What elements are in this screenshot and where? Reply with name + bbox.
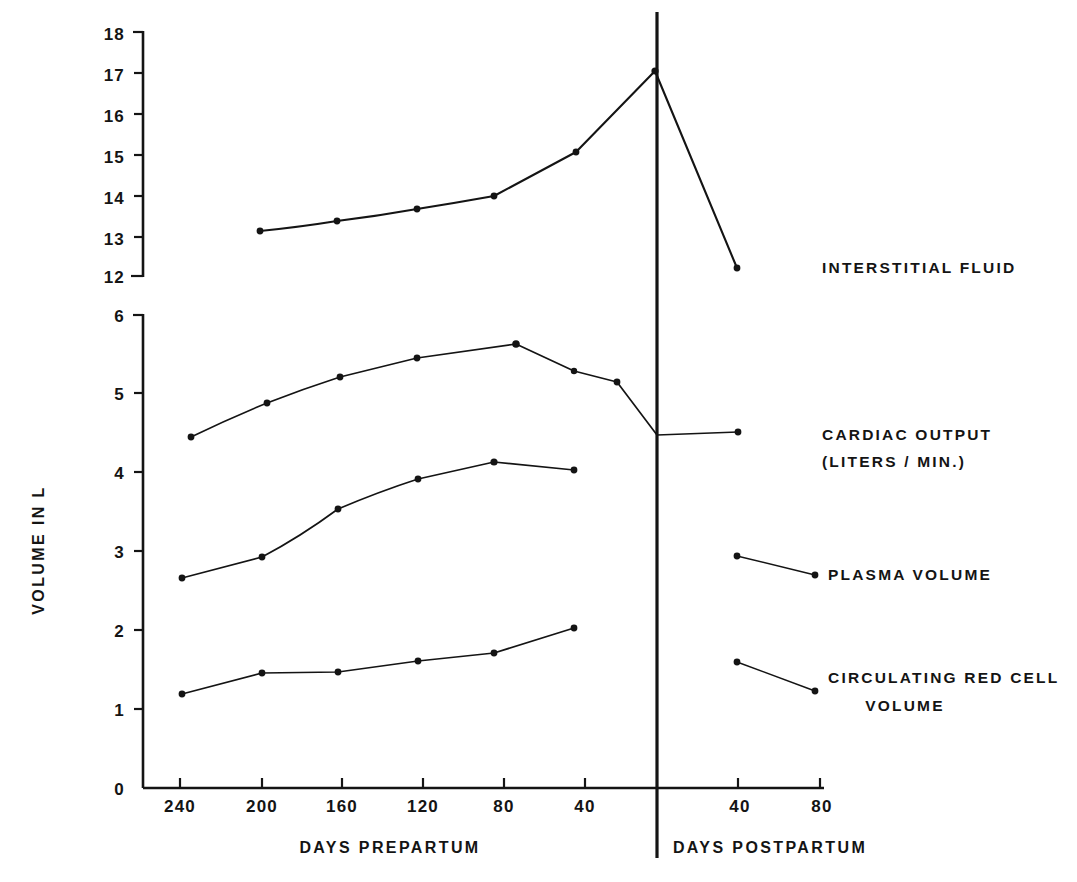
x-tick-label-200: 200: [246, 797, 278, 816]
data-point: [179, 575, 186, 582]
data-point: [415, 658, 422, 665]
y-tick-label-5: 5: [114, 385, 125, 404]
data-point: [571, 368, 577, 374]
data-point: [257, 228, 264, 235]
chart-svg: 18 17 16 15 14 13 12 INTERSTITIAL FLUID: [0, 0, 1077, 882]
y-tick-label-0: 0: [114, 780, 125, 799]
series-label-red-cell-line2: VOLUME: [865, 697, 945, 714]
upper-y-tick-labels: 18 17 16 15 14 13 12: [104, 25, 125, 287]
y-tick-label-2: 2: [114, 622, 125, 641]
y-tick-label-16: 16: [104, 107, 125, 126]
data-point: [259, 670, 266, 677]
red-cell-volume-line: [182, 628, 574, 694]
x-axis-title-postpartum: DAYS POSTPARTUM: [673, 839, 867, 856]
y-tick-label-12: 12: [104, 268, 125, 287]
data-point: [264, 400, 271, 407]
data-point: [335, 669, 342, 676]
x-tick-labels: 240 200 160 120 80 40 40 80: [164, 797, 833, 816]
red-cell-volume-leader: [737, 662, 815, 691]
x-axis-ticks: [180, 778, 820, 788]
data-point: [414, 206, 421, 213]
x-tick-label-post-80: 80: [811, 797, 832, 816]
y-tick-label-15: 15: [104, 148, 125, 167]
x-tick-label-40: 40: [574, 797, 595, 816]
plasma-volume-line: [182, 462, 574, 578]
x-tick-label-post-40: 40: [729, 797, 750, 816]
series-label-plasma-volume: PLASMA VOLUME: [828, 566, 992, 583]
upper-panel-axis: [131, 31, 143, 277]
data-point: [491, 193, 498, 200]
lower-y-tick-labels: 6 5 4 3 2 1 0: [114, 307, 125, 799]
data-point: [414, 355, 421, 362]
data-point: [337, 374, 344, 381]
data-point: [812, 572, 819, 579]
data-point: [571, 467, 578, 474]
data-point: [734, 659, 741, 666]
series-circulating-red-cell-volume: [179, 625, 819, 698]
y-tick-label-14: 14: [104, 189, 125, 208]
data-point: [334, 218, 341, 225]
plasma-volume-leader: [737, 556, 815, 575]
data-point: [490, 458, 497, 465]
data-point: [571, 625, 578, 632]
chart-figure: 18 17 16 15 14 13 12 INTERSTITIAL FLUID: [0, 0, 1077, 882]
data-point: [735, 429, 742, 436]
data-point: [734, 265, 741, 272]
y-tick-label-1: 1: [114, 701, 125, 720]
x-axis-title-prepartum: DAYS PREPARTUM: [299, 839, 480, 856]
interstitial-fluid-line: [260, 71, 737, 268]
x-tick-label-80: 80: [493, 797, 514, 816]
data-point: [179, 691, 186, 698]
data-point: [259, 554, 266, 561]
data-point: [734, 553, 741, 560]
series-label-cardiac-output-line1: CARDIAC OUTPUT: [822, 426, 992, 443]
series-label-cardiac-output-line2: (LITERS / MIN.): [822, 453, 966, 470]
x-tick-label-120: 120: [407, 797, 439, 816]
data-point: [335, 506, 342, 513]
data-point: [812, 688, 819, 695]
series-plasma-volume: [179, 458, 819, 581]
y-tick-label-4: 4: [114, 464, 125, 483]
data-point: [614, 379, 621, 386]
data-point: [415, 476, 422, 483]
data-point: [573, 149, 580, 156]
y-axis-title: VOLUME IN L: [30, 485, 47, 615]
y-tick-label-17: 17: [104, 66, 125, 85]
data-point: [491, 650, 498, 657]
series-interstitial-fluid: [257, 67, 741, 271]
y-tick-label-3: 3: [114, 543, 125, 562]
x-tick-label-160: 160: [326, 797, 358, 816]
x-tick-label-240: 240: [164, 797, 196, 816]
y-tick-label-18: 18: [104, 25, 125, 44]
data-point: [512, 340, 520, 348]
lower-panel-axis: [133, 314, 824, 788]
series-label-red-cell-line1: CIRCULATING RED CELL: [828, 669, 1059, 686]
data-point: [188, 434, 195, 441]
series-label-interstitial-fluid: INTERSTITIAL FLUID: [822, 259, 1016, 276]
y-tick-label-6: 6: [114, 307, 125, 326]
y-tick-label-13: 13: [104, 230, 125, 249]
